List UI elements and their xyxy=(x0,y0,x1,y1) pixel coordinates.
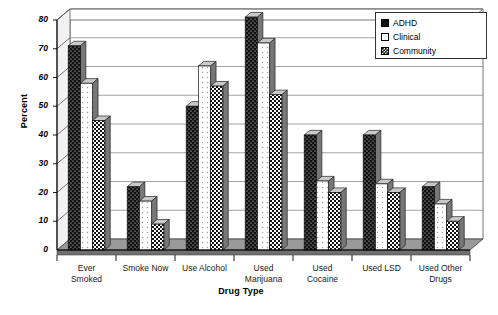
legend-label-community: Community xyxy=(393,46,436,56)
x-axis-title-text: Drug Type xyxy=(218,286,264,296)
x-category-label: Used OtherDrugs xyxy=(406,263,476,284)
chart-legend: ADHD Clinical Community xyxy=(375,12,487,59)
legend-item-clinical: Clinical xyxy=(381,30,482,44)
y-tick-label: 80 xyxy=(24,14,48,24)
y-tick-label: 0 xyxy=(24,244,48,254)
legend-swatch-adhd xyxy=(381,19,389,27)
y-tick-label: 60 xyxy=(24,72,48,82)
legend-swatch-community xyxy=(381,47,389,55)
x-axis-title: Drug Type xyxy=(0,286,498,296)
y-tick-label: 10 xyxy=(24,215,48,225)
legend-item-community: Community xyxy=(381,44,482,58)
y-tick-label: 70 xyxy=(24,43,48,53)
legend-swatch-clinical xyxy=(381,33,389,41)
legend-label-adhd: ADHD xyxy=(393,18,417,28)
y-tick-label: 30 xyxy=(24,158,48,168)
legend-item-adhd: ADHD xyxy=(381,16,482,30)
legend-label-clinical: Clinical xyxy=(393,32,420,42)
bar-chart: Percent 01020304050607080EverSmokedSmoke… xyxy=(0,0,498,315)
y-tick-label: 40 xyxy=(24,129,48,139)
y-tick-label: 20 xyxy=(24,187,48,197)
y-tick-label: 50 xyxy=(24,100,48,110)
